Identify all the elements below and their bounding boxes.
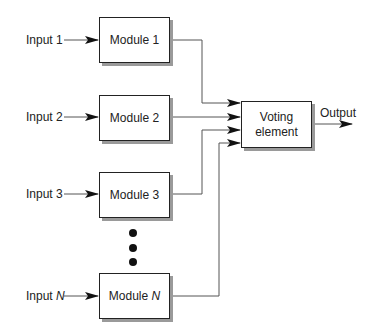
input-3-label: Input 3 — [26, 187, 63, 201]
module-3-label: Module 3 — [110, 188, 159, 203]
output-label: Output — [320, 106, 356, 120]
module-1-box: Module 1 — [99, 17, 170, 63]
ellipsis-dot — [129, 244, 137, 252]
module-1-label: Module 1 — [110, 33, 159, 48]
connector-layer — [0, 0, 376, 334]
module-n-label: Module N — [109, 289, 160, 304]
input-2-label: Input 2 — [26, 110, 63, 124]
ellipsis-dot — [129, 258, 137, 266]
module-n-connector — [170, 143, 240, 296]
ellipsis-dot — [129, 229, 137, 237]
input-1-label: Input 1 — [26, 33, 63, 47]
input-n-label: Input N — [26, 289, 65, 303]
module-3-box: Module 3 — [99, 172, 170, 218]
module-2-box: Module 2 — [99, 95, 170, 141]
voting-element-label-2: element — [255, 125, 298, 140]
voting-element-label: Voting — [260, 110, 293, 125]
module-3-connector — [170, 130, 240, 194]
module-n-box: Module N — [99, 273, 170, 319]
module-2-label: Module 2 — [110, 111, 159, 126]
module-1-connector — [170, 40, 240, 103]
voting-element-box: Voting element — [241, 101, 312, 148]
